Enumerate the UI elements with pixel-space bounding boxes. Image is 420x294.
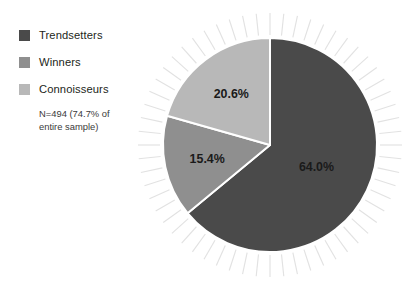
pie-slice-value-label: 64.0% — [299, 160, 334, 174]
sunburst-ray — [172, 219, 188, 234]
sunburst-ray — [156, 200, 175, 211]
sunburst-ray — [182, 47, 197, 63]
sunburst-ray — [229, 19, 236, 40]
sunburst-ray — [375, 179, 396, 186]
sunburst-ray — [315, 24, 324, 44]
sunburst-ray — [163, 67, 181, 80]
sunburst-ray — [365, 79, 384, 90]
pie-slice-value-label: 20.6% — [214, 87, 249, 101]
sunburst-ray — [359, 210, 377, 223]
sunburst-ray — [344, 227, 359, 243]
pie-slice-value-label: 15.4% — [190, 152, 225, 166]
sunburst-ray — [139, 131, 161, 133]
sunburst-ray — [144, 104, 165, 111]
sunburst-ray — [370, 91, 390, 100]
sunburst-ray — [243, 253, 248, 275]
sunburst-ray — [325, 31, 336, 50]
sunburst-ray — [216, 245, 225, 265]
sunburst-ray — [344, 47, 359, 63]
sunburst-ray — [282, 14, 284, 36]
sunburst-ray — [256, 14, 258, 36]
sunburst-ray — [139, 157, 161, 159]
sunburst-ray — [352, 219, 368, 234]
sunburst-ray — [229, 250, 236, 271]
sunburst-ray — [144, 179, 165, 186]
sunburst-ray — [204, 31, 215, 50]
sunburst-ray — [282, 254, 284, 276]
sunburst-ray — [149, 91, 169, 100]
sunburst-ray — [370, 190, 390, 199]
pie-container: 64.0%15.4%20.6% — [0, 0, 420, 294]
sunburst-ray — [172, 57, 188, 72]
sunburst-ray — [141, 118, 163, 123]
pie-svg: 64.0%15.4%20.6% — [0, 0, 420, 294]
sunburst-ray — [325, 240, 336, 259]
sunburst-ray — [379, 131, 401, 133]
sunburst-ray — [335, 38, 348, 56]
sunburst-ray — [182, 227, 197, 243]
sunburst-ray — [378, 118, 400, 123]
sunburst-ray — [352, 57, 368, 72]
sunburst-ray — [365, 200, 384, 211]
sunburst-ray — [256, 254, 258, 276]
sunburst-ray — [304, 250, 311, 271]
sunburst-ray — [149, 190, 169, 199]
sunburst-ray — [375, 104, 396, 111]
sunburst-ray — [293, 16, 298, 38]
sunburst-ray — [379, 157, 401, 159]
pie-slices — [163, 38, 377, 252]
sunburst-ray — [141, 168, 163, 173]
sunburst-ray — [216, 24, 225, 44]
sunburst-ray — [204, 240, 215, 259]
sunburst-ray — [192, 38, 205, 56]
sunburst-ray — [359, 67, 377, 80]
sunburst-ray — [304, 19, 311, 40]
sunburst-ray — [335, 234, 348, 252]
sunburst-ray — [293, 253, 298, 275]
sunburst-ray — [163, 210, 181, 223]
pie-chart-figure: Trendsetters Winners Connoisseurs N=494 … — [0, 0, 420, 294]
sunburst-ray — [192, 234, 205, 252]
sunburst-ray — [156, 79, 175, 90]
sunburst-ray — [378, 168, 400, 173]
sunburst-ray — [243, 16, 248, 38]
sunburst-ray — [315, 245, 324, 265]
